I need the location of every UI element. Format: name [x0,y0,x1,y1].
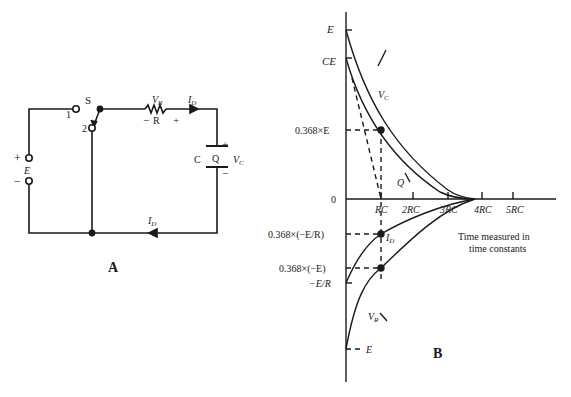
y-label-neg-e: E [365,344,372,355]
y-label-0368e: 0.368×E [295,125,329,136]
leader-vr [380,313,387,321]
current-top-label: ID [187,94,196,107]
wire-bottom-loop [29,173,217,233]
discharge-graph [346,12,556,382]
current-arrow-bottom-icon [149,229,157,237]
switch-pos-1-label: 1 [66,109,71,120]
y-label-e: E [326,23,334,35]
resistor-plus-sign: + [173,114,179,126]
resistor-minus-sign: − [143,114,149,126]
curve-vc [346,30,475,199]
leader-vc [378,50,386,66]
curve-label-id: ID [385,232,394,245]
capacitor-plus-sign: + [222,138,228,150]
point-vc-rc [378,127,384,133]
graph-labels: E CE 0.368×E 0 0.368×(−E/R) 0.368×(−E) −… [268,23,530,361]
x-tick-label-3rc: 3RC [439,204,458,215]
capacitor-voltage-label: VC [233,154,244,167]
source-label: E [23,165,30,176]
rc-discharge-figure: S 1 2 + E − VR − R + ID + C Q VC − ID A [0,0,571,397]
tangent-line [352,78,381,199]
switch-pos-2-label: 2 [82,123,87,134]
point-id-rc [378,231,384,237]
switch-label: S [85,94,91,106]
y-label-zero: 0 [331,194,336,205]
y-label-ce: CE [322,55,336,67]
curve-label-vr: VR [368,311,379,324]
bottom-junction-node [89,230,94,235]
curve-label-vc: VC [378,89,389,102]
source-terminal-plus [26,155,32,161]
source-plus-sign: + [14,151,21,165]
y-label-neg-er: −E/R [309,278,331,289]
y-label-0368-neg-e: 0.368×(−E) [279,263,326,275]
x-tick-label-rc: RC [374,204,388,215]
capacitor-minus-sign: − [222,167,228,179]
resistor-label: R [153,115,160,126]
circuit-diagram [26,105,228,237]
source-terminal-minus [26,178,32,184]
curve-label-q: Q [397,177,405,188]
capacitor-label: C [194,154,201,165]
capacitor-charge-label: Q [212,153,220,164]
circuit-labels: S 1 2 + E − VR − R + ID + C Q VC − ID A [14,94,244,275]
panel-a-label: A [108,260,119,275]
x-tick-label-5rc: 5RC [506,204,524,215]
x-axis-note-line2: time constants [469,243,527,254]
x-tick-label-2rc: 2RC [402,204,420,215]
x-axis-note-line1: Time measured in [458,231,530,242]
x-tick-label-4rc: 4RC [474,204,492,215]
resistor-r [145,105,166,113]
curve-q [346,58,475,199]
panel-b-label: B [433,346,442,361]
y-label-0368er: 0.368×(−E/R) [268,229,324,241]
leader-q [405,173,410,182]
switch-terminal-1 [73,106,79,112]
source-minus-sign: − [14,174,21,188]
current-bottom-label: ID [147,215,156,228]
point-vr-rc [378,265,384,271]
switch-terminal-2 [89,125,95,131]
curve-vr [346,199,475,349]
